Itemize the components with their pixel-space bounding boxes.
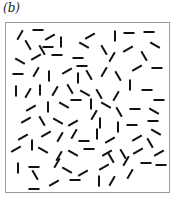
segment-field-box xyxy=(5,22,170,193)
line-segment xyxy=(127,169,133,179)
line-segment xyxy=(115,71,121,81)
line-segment xyxy=(147,138,153,148)
line-segment xyxy=(38,147,48,153)
line-segment xyxy=(32,170,38,180)
line-segment xyxy=(41,131,51,137)
line-segment xyxy=(59,102,69,108)
line-segment xyxy=(62,68,72,74)
line-segment xyxy=(79,42,89,48)
line-segment xyxy=(68,150,78,156)
line-segment xyxy=(15,58,25,64)
line-segment xyxy=(52,86,58,96)
line-segment xyxy=(71,129,77,139)
line-segment xyxy=(31,54,41,60)
line-segment xyxy=(109,176,115,186)
line-segment xyxy=(150,42,160,48)
line-segment xyxy=(101,102,111,108)
line-segment xyxy=(39,116,45,126)
line-segment xyxy=(53,118,63,124)
line-segment xyxy=(91,110,97,120)
line-segment xyxy=(68,120,78,126)
line-segment xyxy=(101,67,107,77)
line-segment xyxy=(21,117,31,123)
line-segment xyxy=(57,132,63,142)
line-segment xyxy=(33,67,39,77)
line-segment xyxy=(105,137,115,143)
line-segment xyxy=(133,148,143,154)
line-segment xyxy=(62,167,72,173)
line-segment xyxy=(109,52,115,62)
line-segment xyxy=(17,30,23,40)
line-segment xyxy=(67,84,73,94)
line-segment xyxy=(49,180,59,186)
line-segment xyxy=(113,91,119,101)
line-segment xyxy=(80,90,90,96)
line-segment xyxy=(99,164,109,170)
line-segment xyxy=(154,150,164,156)
line-segment xyxy=(108,153,114,163)
line-segment xyxy=(149,108,159,114)
line-segment xyxy=(45,34,55,40)
line-segment-field xyxy=(6,23,171,194)
line-segment xyxy=(86,70,92,80)
line-segment xyxy=(96,89,102,99)
line-segment xyxy=(18,134,28,140)
panel-label: (b) xyxy=(3,1,20,15)
line-segment xyxy=(25,40,31,50)
line-segment xyxy=(26,105,36,111)
line-segment xyxy=(132,65,142,71)
line-segment xyxy=(151,129,161,135)
line-segment xyxy=(120,149,126,159)
line-segment xyxy=(141,51,147,61)
line-segment xyxy=(11,146,21,152)
line-segment xyxy=(85,33,95,39)
line-segment xyxy=(132,135,142,141)
line-segment xyxy=(123,46,133,52)
line-segment xyxy=(101,45,107,55)
line-segment xyxy=(25,88,31,98)
line-segment xyxy=(78,170,88,176)
line-segment xyxy=(116,107,122,117)
